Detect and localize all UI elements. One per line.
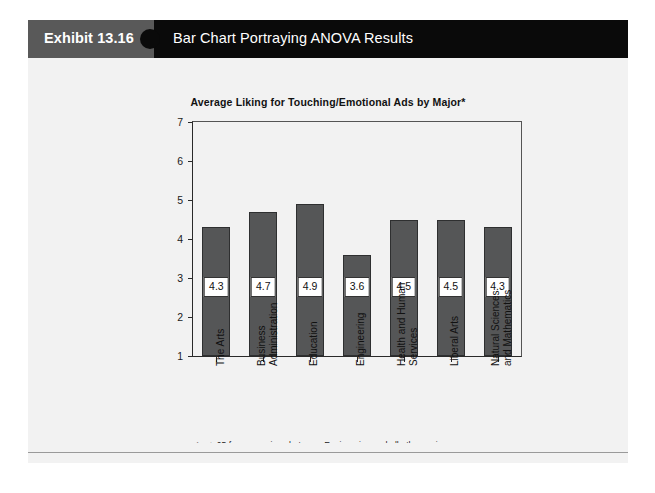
x-axis-category-line: Education	[308, 322, 320, 366]
y-axis-tick: 2	[177, 311, 193, 323]
y-axis-tick: 3	[177, 272, 193, 284]
chart-title: Average Liking for Touching/Emotional Ad…	[28, 96, 628, 108]
x-axis-category-label: Natural Sciencesand Mathematics	[490, 290, 513, 366]
exhibit-number-label: Exhibit 13.16	[44, 30, 134, 46]
y-axis-tick-label: 7	[177, 116, 188, 128]
y-axis-tick-mark	[188, 317, 193, 318]
x-axis-category-line: Services	[408, 283, 420, 366]
bar-value-label: 4.5	[438, 277, 463, 297]
x-axis-category-line: Liberal Arts	[449, 316, 461, 366]
panel-bottom-band	[28, 443, 628, 463]
exhibit-title: Bar Chart Portraying ANOVA Results	[173, 30, 413, 46]
y-axis-tick-mark	[188, 239, 193, 240]
x-axis-category-line: and Mathematics	[502, 290, 514, 366]
y-axis-tick: 5	[177, 194, 193, 206]
chart-plot-area: 1234567 4.34.74.93.64.54.54.3 The ArtsBu…	[192, 121, 522, 357]
chart-card: Average Liking for Touching/Emotional Ad…	[28, 58, 628, 443]
bar-value-label: 4.7	[251, 277, 276, 297]
bar-value-label: 3.6	[345, 277, 370, 297]
y-axis-tick: 6	[177, 155, 193, 167]
y-axis-tick-mark	[188, 278, 193, 279]
bar-value-label: 4.3	[204, 277, 229, 297]
y-axis-tick-label: 4	[177, 233, 188, 245]
y-axis-tick-mark	[188, 356, 193, 357]
exhibit-panel: Exhibit 13.16 Bar Chart Portraying ANOVA…	[28, 20, 628, 443]
x-axis-category-line: Business	[256, 303, 268, 366]
x-axis-category-line: Natural Sciences	[490, 290, 502, 366]
exhibit-header-bar: Exhibit 13.16 Bar Chart Portraying ANOVA…	[28, 20, 628, 58]
y-axis-tick-label: 1	[177, 350, 188, 362]
header-notch-circle-icon	[140, 29, 160, 49]
exhibit-page: Exhibit 13.16 Bar Chart Portraying ANOVA…	[0, 0, 655, 493]
x-axis-category-line: Health and Human	[396, 283, 408, 366]
y-axis-tick-label: 3	[177, 272, 188, 284]
bar-value-label: 4.9	[298, 277, 323, 297]
y-axis-tick: 4	[177, 233, 193, 245]
y-axis-tick-mark	[188, 161, 193, 162]
x-axis-category-label: Liberal Arts	[449, 316, 461, 366]
x-axis-category-label: Health and HumanServices	[396, 283, 419, 366]
y-axis-tick-label: 2	[177, 311, 188, 323]
y-axis-tick: 7	[177, 116, 193, 128]
x-axis-category-label: The Arts	[215, 329, 227, 366]
x-axis-category-label: Education	[308, 322, 320, 366]
y-axis-tick-mark	[188, 122, 193, 123]
x-axis-category-label: Engineering	[355, 313, 367, 366]
x-axis-category-line: Engineering	[355, 313, 367, 366]
y-axis-tick-label: 6	[177, 155, 188, 167]
page-bottom-rule	[28, 452, 628, 453]
y-axis-tick-label: 5	[177, 194, 188, 206]
x-axis-category-line: Administration	[267, 303, 279, 366]
y-axis-tick: 1	[177, 350, 193, 362]
x-axis-category-line: The Arts	[215, 329, 227, 366]
y-axis-tick-mark	[188, 200, 193, 201]
x-axis-category-label: BusinessAdministration	[256, 303, 279, 366]
